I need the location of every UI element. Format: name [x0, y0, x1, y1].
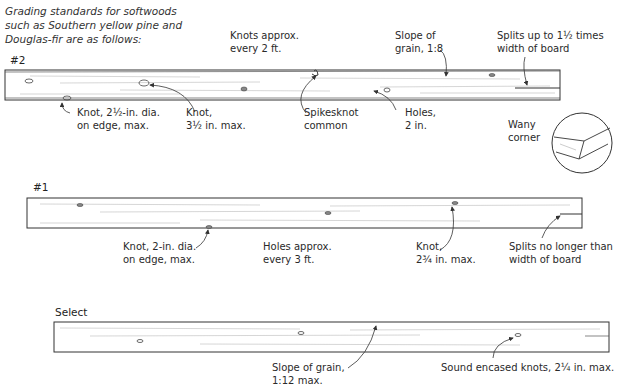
label-spikesknot: Spikesknot common: [304, 107, 358, 132]
grade-label-2: #2: [10, 54, 25, 66]
label-slope-1-8: Slope of grain, 1:8: [395, 30, 443, 55]
label-slope-1-12: Slope of grain, 1:12 max.: [272, 362, 345, 387]
label-wany-corner: Wany corner: [508, 119, 540, 144]
label-knots-spacing: Knots approx. every 2 ft.: [230, 30, 299, 55]
label-splits-no-longer: Splits no longer than width of board: [509, 241, 613, 266]
label-edge-knot-2-5: Knot, 2½-in. dia. on edge, max.: [77, 107, 160, 132]
label-splits-1-5: Splits up to 1½ times width of board: [497, 30, 604, 55]
label-holes-2in: Holes, 2 in.: [405, 107, 436, 132]
board-2: [5, 50, 560, 113]
grade-label-1: #1: [33, 181, 48, 193]
label-edge-knot-2: Knot, 2-in. dia. on edge, max.: [123, 241, 196, 266]
label-holes-3ft: Holes approx. every 3 ft.: [263, 241, 332, 266]
label-knot-2-75: Knot, 2¾ in. max.: [416, 241, 476, 266]
label-knot-3-5: Knot, 3½ in. max.: [186, 107, 246, 132]
grade-label-select: Select: [55, 306, 87, 318]
grading-illustration: [0, 0, 618, 392]
wany-corner-detail: [552, 113, 612, 173]
label-sound-knots: Sound encased knots, 2¼ in. max.: [441, 362, 614, 375]
